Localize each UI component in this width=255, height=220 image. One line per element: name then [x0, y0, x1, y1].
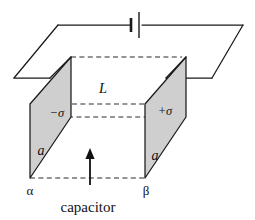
wire-left-edge	[14, 25, 58, 78]
label-point-beta: β	[143, 183, 150, 198]
label-negative-sigma: −σ	[50, 106, 65, 120]
battery-symbol	[131, 12, 139, 38]
circuit-wire-loop	[14, 25, 243, 78]
caption-capacitor: capacitor	[61, 199, 116, 215]
label-side-a-left: a	[38, 143, 45, 158]
label-point-alpha: α	[27, 183, 34, 198]
capacitor-diagram: L −σ +σ a a α β capacitor	[0, 0, 255, 220]
capacitor-pointer-arrow	[85, 148, 94, 185]
wire-right-edge	[212, 25, 243, 78]
label-positive-sigma: +σ	[158, 104, 173, 118]
arrow-head-icon	[85, 148, 94, 159]
label-side-a-right: a	[152, 148, 159, 163]
label-separation-L: L	[98, 80, 107, 96]
capacitor-figure-svg: L −σ +σ a a α β capacitor	[0, 0, 255, 220]
